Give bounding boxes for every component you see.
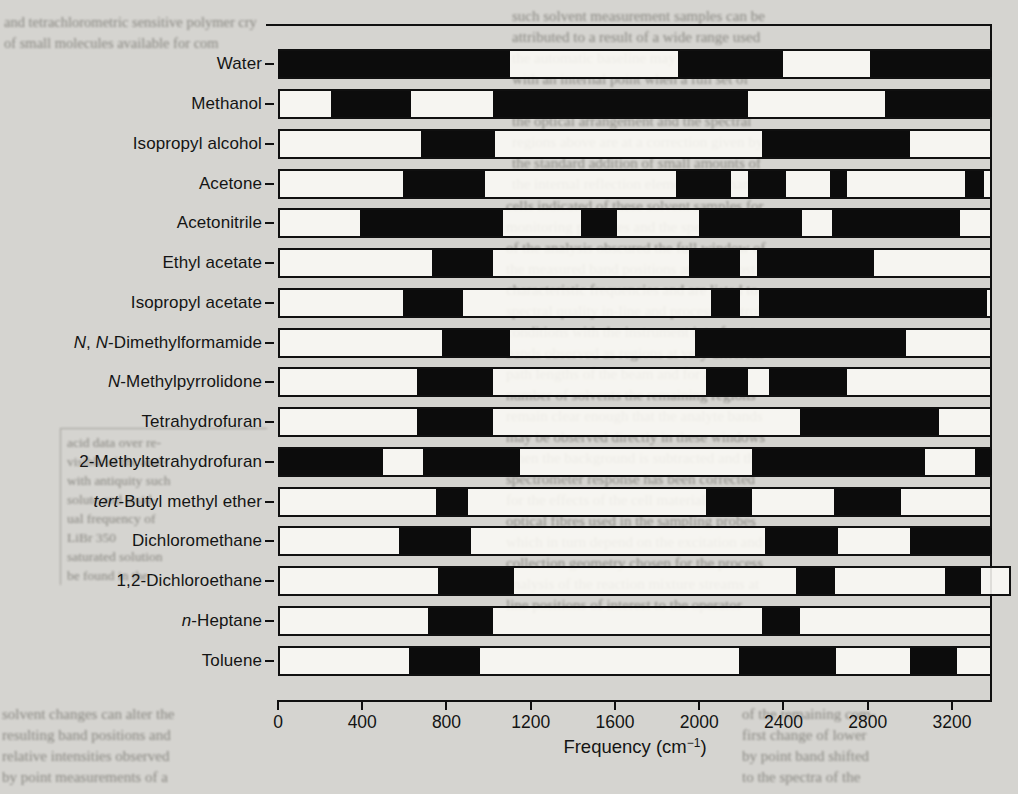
solvent-label-text: tert <box>93 492 118 511</box>
y-tick <box>265 222 274 224</box>
absorption-band <box>493 91 748 117</box>
solvent-label: 1,2-Dichloroethane <box>0 570 262 592</box>
x-axis-line <box>278 700 992 702</box>
x-axis-tick <box>951 700 953 710</box>
absorption-band <box>965 171 984 197</box>
solvent-label-text: 2-Methyltetrahydrofuran <box>79 452 262 471</box>
solvent-label: Tetrahydrofuran <box>0 411 262 433</box>
solvent-label: Isopropyl alcohol <box>0 133 262 155</box>
solvent-label-text: Ethyl acetate <box>162 253 262 272</box>
absorption-band <box>678 51 783 77</box>
solvent-label-text: Isopropyl alcohol <box>133 134 262 153</box>
absorption-band <box>765 528 839 554</box>
absorption-band <box>910 528 992 554</box>
x-tick-label: 3200 <box>917 712 987 733</box>
x-tick-label: 1600 <box>580 712 650 733</box>
absorption-band <box>360 210 503 236</box>
solvent-label-text: N <box>108 372 120 391</box>
solvent-label: N-Methylpyrrolidone <box>0 371 262 393</box>
solvent-label-text: , <box>86 333 96 352</box>
absorption-band <box>442 330 509 356</box>
absorption-band <box>945 568 982 594</box>
absorption-band <box>695 330 906 356</box>
absorption-band <box>438 568 514 594</box>
x-tick-label: 800 <box>411 712 481 733</box>
absorption-band <box>699 210 802 236</box>
absorption-band <box>436 489 468 515</box>
absorption-band <box>910 648 957 674</box>
x-axis-tick <box>277 700 279 710</box>
x-axis-title: Frequency (cm−1) <box>475 736 795 758</box>
absorption-band <box>581 210 617 236</box>
y-tick <box>265 381 274 383</box>
solvent-row-bar <box>278 447 992 477</box>
x-axis-title-suffix: ) <box>700 736 706 757</box>
solvent-label: Dichloromethane <box>0 530 262 552</box>
solvent-label-text: -Heptane <box>191 611 262 630</box>
y-tick <box>265 63 274 65</box>
absorption-band <box>834 489 901 515</box>
solvent-row-bar <box>278 129 992 159</box>
solvent-row-bar <box>278 487 992 517</box>
solvent-label-text: Acetonitrile <box>177 213 262 232</box>
absorption-band <box>331 91 411 117</box>
y-tick <box>265 103 274 105</box>
solvent-label-text: n <box>182 611 192 630</box>
absorption-band <box>975 449 992 475</box>
absorption-band <box>759 290 986 316</box>
solvent-label: Toluene <box>0 650 262 672</box>
solvent-label-text: N <box>74 333 86 352</box>
x-axis-title-prefix: Frequency (cm <box>563 736 686 757</box>
solvent-label: Water <box>0 53 262 75</box>
solvent-label-text: Isopropyl acetate <box>131 293 262 312</box>
absorption-band <box>885 91 992 117</box>
solvent-row-bar <box>278 646 992 676</box>
solvent-row-bar <box>278 328 992 358</box>
y-tick <box>265 620 274 622</box>
absorption-band <box>832 210 960 236</box>
solvent-row-bar <box>278 248 992 278</box>
absorption-band <box>711 290 740 316</box>
absorption-band <box>417 409 493 435</box>
solvent-label: Methanol <box>0 93 262 115</box>
absorption-band <box>689 250 741 276</box>
solvent-row-bar <box>278 208 992 238</box>
plot-frame-right <box>990 24 992 702</box>
x-tick-label: 400 <box>327 712 397 733</box>
y-tick <box>265 302 274 304</box>
absorption-band <box>278 51 510 77</box>
absorption-band <box>403 290 463 316</box>
solvent-row-bar <box>278 606 992 636</box>
y-tick <box>265 660 274 662</box>
solvent-label: Ethyl acetate <box>0 252 262 274</box>
solvent-row-bar <box>278 169 992 199</box>
x-axis-tick <box>698 700 700 710</box>
solvent-row-bar <box>278 49 992 79</box>
absorption-band <box>278 449 383 475</box>
absorption-band <box>423 449 520 475</box>
solvent-label-text: Dichloromethane <box>132 531 262 550</box>
y-tick <box>265 262 274 264</box>
absorption-band <box>870 51 992 77</box>
solvent-label-text: 1,2-Dichloroethane <box>117 571 262 590</box>
y-tick <box>265 342 274 344</box>
solvent-label-text: Tetrahydrofuran <box>141 412 262 431</box>
x-tick-label: 1200 <box>496 712 566 733</box>
absorption-band <box>739 648 836 674</box>
solvent-row-bar <box>278 407 992 437</box>
absorption-band <box>762 131 909 157</box>
absorption-band <box>800 409 939 435</box>
solvent-label-text: -Methylpyrrolidone <box>120 372 262 391</box>
x-axis-title-superscript: −1 <box>687 736 701 750</box>
solvent-label: tert-Butyl methyl ether <box>0 491 262 513</box>
absorption-band <box>417 369 493 395</box>
absorption-band <box>757 250 874 276</box>
absorption-band <box>752 449 925 475</box>
absorption-band <box>762 608 800 634</box>
absorption-band <box>432 250 493 276</box>
scanned-page: and tetrachlorometric sensitive polymer … <box>0 0 1018 794</box>
y-tick <box>265 461 274 463</box>
x-axis-tick <box>445 700 447 710</box>
y-tick <box>265 143 274 145</box>
solvent-label-text: Acetone <box>199 174 262 193</box>
